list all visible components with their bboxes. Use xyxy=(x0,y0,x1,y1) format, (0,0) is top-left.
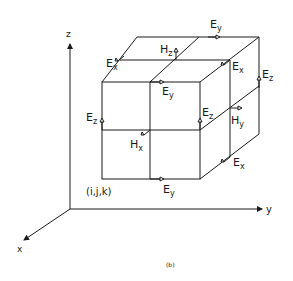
hx-label: Hx xyxy=(130,138,143,153)
hy-label: Hy xyxy=(231,114,244,129)
ex-label: Ex xyxy=(232,60,244,75)
figure-caption: (b) xyxy=(166,261,175,268)
ex-label: Ex xyxy=(233,156,245,171)
ey-label: Ey xyxy=(163,183,175,198)
ez-label: Ez xyxy=(86,111,97,126)
ey-label: Ey xyxy=(210,18,222,33)
ez-label: Ez xyxy=(202,106,213,121)
x-axis xyxy=(24,209,70,240)
ey-label: Ey xyxy=(162,85,174,100)
ez-label: Ez xyxy=(262,68,273,83)
x-axis-label: x xyxy=(17,244,23,254)
hz-label: Hz xyxy=(160,43,172,58)
yee-cell-diagram: z y x Ex Hz Ey Ex Ey Ez Ez Ez Hy Hx Ex E… xyxy=(0,0,293,281)
origin-label: (i,j,k) xyxy=(86,186,112,197)
z-axis-label: z xyxy=(66,29,71,39)
y-axis-label: y xyxy=(266,204,272,215)
